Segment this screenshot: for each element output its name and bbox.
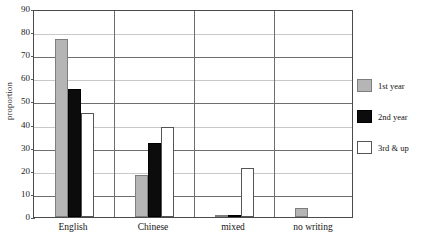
legend-item-label: 2nd year	[378, 112, 408, 122]
y-axis-tick-label: 90	[6, 5, 30, 14]
y-axis-tick-mark	[31, 218, 35, 219]
legend-swatch	[357, 141, 372, 154]
y-axis-tick-label: 80	[6, 28, 30, 37]
y-axis-tick-label: 40	[6, 121, 30, 130]
bar	[81, 113, 94, 217]
y-axis-tick-label: 70	[6, 51, 30, 60]
legend-item: 1st year	[357, 78, 409, 93]
legend-swatch	[357, 110, 372, 123]
gridline	[34, 80, 352, 81]
x-axis-tick-label: English	[28, 222, 118, 232]
y-axis-tick-label: 60	[6, 74, 30, 83]
bar	[68, 89, 81, 217]
group-separator	[114, 11, 115, 217]
bar	[215, 215, 228, 217]
legend-item-label: 3rd & up	[378, 143, 409, 153]
y-axis-tick-label: 30	[6, 144, 30, 153]
legend-swatch	[357, 79, 372, 92]
x-axis-tick-label: Chinese	[108, 222, 198, 232]
bar	[228, 215, 241, 217]
y-axis-tick-labels: 9080706050403020100	[2, 0, 30, 248]
bar-chart: proportion 9080706050403020100 EnglishCh…	[0, 0, 430, 248]
legend-item-label: 1st year	[378, 81, 405, 91]
group-separator	[274, 11, 275, 217]
legend-item: 3rd & up	[357, 140, 409, 155]
legend-item: 2nd year	[357, 109, 409, 124]
bar	[55, 39, 68, 217]
plot-area	[33, 10, 353, 218]
x-axis-tick-label: no writing	[268, 222, 358, 232]
y-axis-tick-label: 20	[6, 167, 30, 176]
bar	[161, 127, 174, 217]
gridline	[34, 103, 352, 104]
bar	[135, 175, 148, 217]
legend: 1st year2nd year3rd & up	[357, 78, 409, 171]
group-separator	[194, 11, 195, 217]
bar	[241, 168, 254, 217]
y-axis-tick-label: 0	[6, 213, 30, 222]
gridline	[34, 57, 352, 58]
x-axis-tick-label: mixed	[188, 222, 278, 232]
y-axis-tick-label: 10	[6, 190, 30, 199]
bar	[148, 143, 161, 217]
bar	[295, 208, 308, 217]
y-axis-tick-label: 50	[6, 97, 30, 106]
gridline	[34, 34, 352, 35]
